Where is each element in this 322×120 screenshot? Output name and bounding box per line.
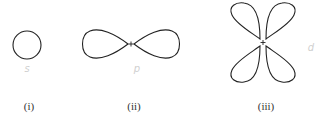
d-annotation: d [308,42,314,53]
p-orbital-right-lobe [134,30,180,58]
p-annotation: p [134,63,140,74]
s-orbital-circle [13,31,41,59]
d-orbital-diagram [231,3,295,82]
d-orbital-lobe-upper-left [231,3,260,39]
caption-iii: (iii) [258,100,275,112]
s-orbital-diagram [13,31,41,59]
caption-i: (i) [24,100,34,112]
d-nucleus-icon [261,40,266,45]
s-annotation: s [24,63,29,74]
caption-ii: (ii) [127,100,140,112]
d-orbital-lobe-lower-right [266,46,295,82]
d-orbital-lobe-upper-right [266,3,295,39]
p-orbital-left-lobe [83,30,129,58]
p-nucleus-icon [129,42,134,47]
d-orbital-lobe-lower-left [231,46,260,82]
p-orbital-diagram [83,30,180,58]
